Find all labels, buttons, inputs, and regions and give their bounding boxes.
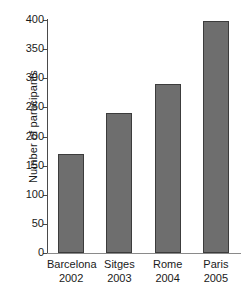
- y-tick-label: 200: [26, 130, 44, 143]
- bar: [58, 154, 84, 253]
- y-tick-label: 50: [32, 217, 44, 230]
- plot-area: 050100150200250300350400: [47, 20, 240, 253]
- x-tick-label-year: 2003: [95, 271, 143, 285]
- y-tick-label: 250: [26, 100, 44, 113]
- x-tick-label-city: Barcelona: [47, 257, 95, 271]
- bar-chart-figure: Number of participants 05010015020025030…: [0, 0, 244, 297]
- y-axis-title: Number of participants: [22, 0, 44, 253]
- x-tick-label: Paris2005: [192, 257, 240, 285]
- x-tick-label-city: Sitges: [95, 257, 143, 271]
- x-tick-label-year: 2002: [47, 271, 95, 285]
- bar: [106, 113, 132, 253]
- bar: [203, 21, 229, 253]
- y-tick-label: 0: [38, 246, 44, 259]
- x-tick-label-city: Rome: [144, 257, 192, 271]
- x-tick-label: Barcelona2002: [47, 257, 95, 285]
- x-tick-label: Sitges2003: [95, 257, 143, 285]
- x-axis-line: [47, 253, 241, 254]
- y-tick-label: 150: [26, 159, 44, 172]
- x-tick-label-year: 2004: [144, 271, 192, 285]
- bar: [155, 84, 181, 253]
- y-tick-label: 100: [26, 188, 44, 201]
- y-tick-label: 400: [26, 13, 44, 26]
- x-tick-label: Rome2004: [144, 257, 192, 285]
- y-tick-label: 300: [26, 71, 44, 84]
- x-tick-label-year: 2005: [192, 271, 240, 285]
- y-tick-label: 350: [26, 42, 44, 55]
- x-tick-label-city: Paris: [192, 257, 240, 271]
